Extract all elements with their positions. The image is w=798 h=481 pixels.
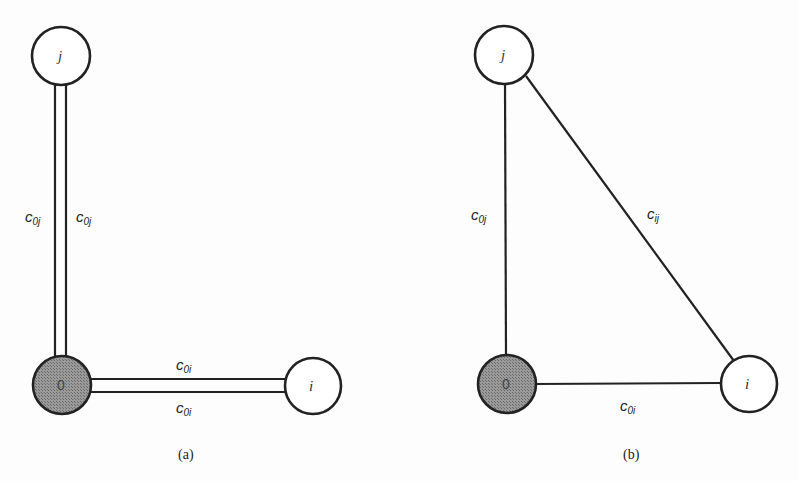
- caption-b: (b): [623, 447, 640, 463]
- edge-label-a-c0j-right: c0j: [76, 208, 92, 227]
- edge-label-a-c0j-left: c0j: [25, 208, 41, 227]
- edge-b-j-i: [526, 76, 734, 361]
- panel-b: j 0 i c0j cij c0i (b): [471, 26, 777, 463]
- edge-label-b-c0j: c0j: [471, 206, 487, 225]
- edge-label-a-c0i-top: c0i: [176, 356, 192, 375]
- edge-b-0-i: [535, 383, 721, 384]
- edge-a-0-j-double: [55, 84, 66, 358]
- panel-a: j 0 i c0j c0j c0i c0i (a): [25, 27, 341, 463]
- node-b-j: j: [475, 26, 533, 84]
- node-b-i-label: i: [745, 376, 749, 392]
- node-b-depot: 0: [478, 355, 536, 413]
- savings-diagram-figure: j 0 i c0j c0j c0i c0i (a): [0, 0, 798, 481]
- edge-label-b-cij: cij: [647, 205, 660, 224]
- caption-a: (a): [178, 447, 194, 463]
- node-b-depot-label: 0: [502, 376, 510, 392]
- node-b-i: i: [721, 356, 777, 412]
- edge-a-0-i-double: [90, 379, 285, 392]
- node-a-depot: 0: [33, 356, 91, 414]
- node-a-i: i: [285, 358, 341, 414]
- edge-b-0-j: [505, 84, 506, 356]
- diagram-svg: j 0 i c0j c0j c0i c0i (a): [0, 0, 798, 481]
- node-a-j: j: [32, 27, 90, 85]
- edge-label-b-c0i: c0i: [620, 397, 636, 416]
- node-a-i-label: i: [309, 378, 313, 394]
- edge-label-a-c0i-bottom: c0i: [176, 399, 192, 418]
- node-a-depot-label: 0: [57, 377, 65, 393]
